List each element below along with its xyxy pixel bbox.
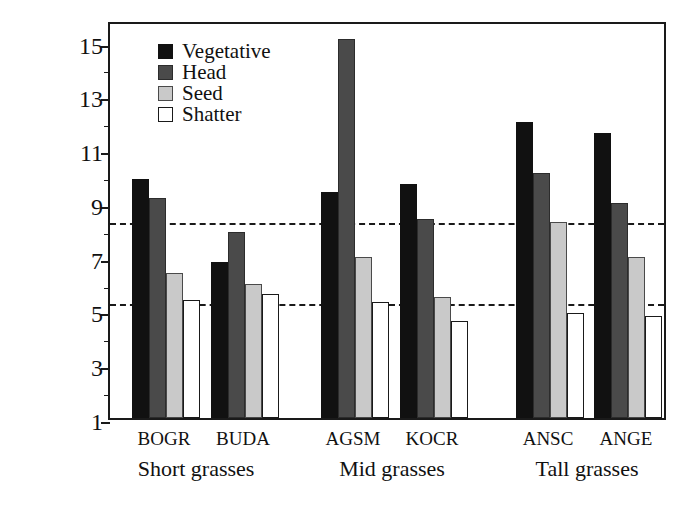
bar-ansc-vegetative <box>516 122 533 418</box>
y-minor-tick <box>104 341 110 342</box>
tick-label: 7 <box>91 249 103 273</box>
legend-label: Shatter <box>182 104 241 125</box>
bar-kocr-seed <box>434 297 451 418</box>
bar-bogr-head <box>149 198 166 419</box>
bar-kocr-shatter <box>451 321 468 418</box>
legend-label: Head <box>182 62 226 83</box>
tick-label: 9 <box>91 195 103 219</box>
legend-swatch-seed <box>158 86 173 101</box>
legend-item-vegetative: Vegetative <box>158 41 271 62</box>
bar-agsm-shatter <box>372 302 389 418</box>
bar-ansc-head <box>533 173 550 418</box>
legend-swatch-head <box>158 65 173 80</box>
legend-label: Seed <box>182 83 223 104</box>
legend-swatch-shatter <box>158 107 173 122</box>
group-label-short-grasses: Short grasses <box>138 456 255 482</box>
x-label-buda: BUDA <box>216 428 270 450</box>
reference-line-8.4 <box>110 223 664 225</box>
bar-agsm-head <box>338 39 355 418</box>
y-minor-tick <box>104 126 110 127</box>
bar-buda-vegetative <box>211 262 228 418</box>
plot-area: 13579111315 VegetativeHeadSeedShatter <box>108 22 666 420</box>
legend-swatch-vegetative <box>158 44 173 59</box>
bar-bogr-vegetative <box>132 179 149 418</box>
x-label-kocr: KOCR <box>406 428 459 450</box>
tick-label: 15 <box>79 34 103 58</box>
chart-legend: VegetativeHeadSeedShatter <box>158 41 271 125</box>
x-label-agsm: AGSM <box>326 428 381 450</box>
bar-buda-head <box>228 232 245 418</box>
y-minor-tick <box>104 180 110 181</box>
bar-ange-vegetative <box>594 133 611 418</box>
bar-ansc-shatter <box>567 313 584 418</box>
bar-ange-seed <box>628 257 645 418</box>
y-minor-tick <box>104 395 110 396</box>
x-label-bogr: BOGR <box>138 428 191 450</box>
bar-kocr-head <box>417 219 434 418</box>
legend-label: Vegetative <box>182 41 271 62</box>
legend-item-seed: Seed <box>158 83 271 104</box>
tick-label: 13 <box>79 87 103 111</box>
tick-label: 3 <box>91 356 103 380</box>
bar-agsm-seed <box>355 257 372 418</box>
bar-ansc-seed <box>550 222 567 418</box>
tick-label: 11 <box>80 141 103 165</box>
bar-agsm-vegetative <box>321 192 338 418</box>
y-minor-tick <box>104 234 110 235</box>
legend-item-head: Head <box>158 62 271 83</box>
group-label-tall-grasses: Tall grasses <box>536 456 639 482</box>
y-minor-tick <box>104 72 110 73</box>
bar-bogr-shatter <box>183 300 200 418</box>
tick-label: 5 <box>91 302 103 326</box>
x-label-ansc: ANSC <box>523 428 574 450</box>
tick-label: 1 <box>91 410 103 434</box>
y-minor-tick <box>104 288 110 289</box>
x-label-ange: ANGE <box>600 428 653 450</box>
bar-kocr-vegetative <box>400 184 417 418</box>
bar-bogr-seed <box>166 273 183 418</box>
group-label-mid-grasses: Mid grasses <box>339 456 445 482</box>
bar-buda-seed <box>245 284 262 418</box>
legend-item-shatter: Shatter <box>158 104 271 125</box>
bar-buda-shatter <box>262 294 279 418</box>
bar-ange-head <box>611 203 628 418</box>
protein-bar-chart: Protein (%) 13579111315 VegetativeHeadSe… <box>0 0 688 508</box>
bar-ange-shatter <box>645 316 662 418</box>
